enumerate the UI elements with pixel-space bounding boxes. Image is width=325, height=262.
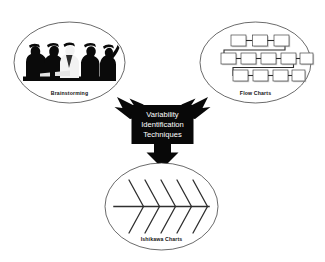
flowchart-row-2 (221, 53, 314, 65)
hub-block: Variability Identification Techniques (132, 105, 194, 144)
brainstorming-label: Brainstorming (51, 90, 88, 96)
flow-charts-label: Flow Charts (240, 90, 271, 96)
flowchart-row-1 (231, 35, 290, 47)
hub-line-2: Identification (141, 120, 184, 129)
hub-line-1: Variability (146, 110, 179, 119)
diagram-canvas: Variability Identification Techniques (0, 0, 325, 262)
variability-identification-diagram: Variability Identification Techniques (0, 0, 325, 262)
node-brainstorming: Brainstorming (14, 22, 125, 103)
hub-line-3: Techniques (143, 130, 182, 139)
ishikawa-charts-label: Ishikawa Charts (141, 236, 183, 242)
node-ishikawa-charts: Ishikawa Charts (105, 163, 218, 250)
node-flow-charts: Flow Charts (200, 22, 314, 103)
